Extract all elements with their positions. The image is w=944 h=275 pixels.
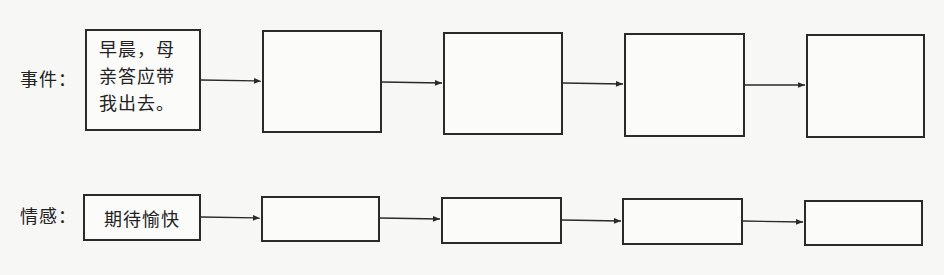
arrow-icon	[743, 221, 803, 222]
arrow-icon	[201, 217, 260, 218]
connector-arrows	[0, 0, 944, 275]
arrow-icon	[380, 218, 440, 219]
arrow-icon	[563, 83, 623, 84]
arrow-icon	[562, 220, 621, 221]
arrow-icon	[201, 80, 261, 81]
arrow-icon	[382, 82, 442, 83]
